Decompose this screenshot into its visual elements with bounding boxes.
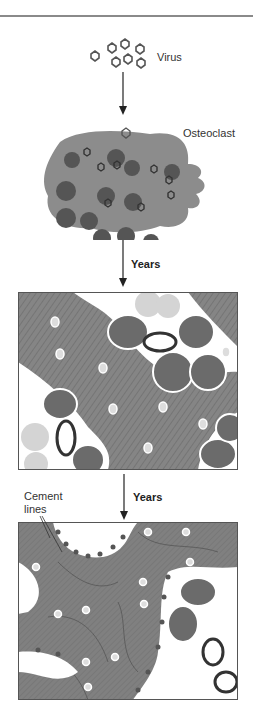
years-label-1: Years: [131, 258, 160, 270]
virus-particles-icon: [80, 35, 160, 71]
arrow-down-icon: [117, 72, 129, 116]
years-label-2: Years: [133, 491, 162, 503]
osteoclast-label: Osteoclast: [183, 127, 235, 139]
early-bone-panel: [18, 292, 238, 470]
cement-lines-label: Cement lines: [24, 490, 63, 516]
top-divider: [0, 15, 253, 17]
arrow-down-icon: [119, 474, 131, 522]
virus-label: Virus: [157, 51, 182, 63]
entering-virus-icon: [120, 127, 132, 139]
cement-lines-pointer: [38, 516, 68, 556]
arrow-down-icon: [118, 240, 130, 288]
